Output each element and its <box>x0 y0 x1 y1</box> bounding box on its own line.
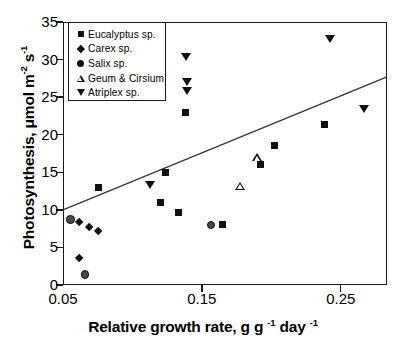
data-point <box>257 157 262 161</box>
y-axis-unit-1: mol m <box>20 75 37 120</box>
marker-triangle-down-filled <box>182 78 192 86</box>
data-point <box>79 223 82 226</box>
marker-square-filled <box>157 199 164 206</box>
marker-circle-filled <box>77 60 84 67</box>
y-axis-title: Photosynthesis, μmol m-2 s-1 <box>18 0 37 298</box>
data-point <box>274 145 278 149</box>
marker-triangle-down-filled <box>77 89 85 96</box>
y-axis-exponent-1: -2 <box>18 66 29 74</box>
legend-item[interactable]: Carex sp. <box>74 42 165 57</box>
y-axis-title-text: Photosynthesis, <box>20 128 37 249</box>
marker-square-filled <box>175 209 182 216</box>
x-axis-title-text: Relative growth rate, g g <box>88 318 267 335</box>
marker-square-filled <box>162 169 169 176</box>
chart-legend: Eucalyptus sp.Carex sp.Salix sp.Geum & C… <box>68 22 166 101</box>
data-point <box>160 202 164 206</box>
data-point <box>150 185 155 189</box>
data-point <box>80 258 83 261</box>
x-axis-title: Relative growth rate, g g -1 day -1 <box>0 317 406 336</box>
y-axis-unit-2: s <box>20 54 37 67</box>
data-point <box>89 227 92 230</box>
data-point <box>211 225 215 229</box>
data-point <box>85 274 89 278</box>
legend-item-label: Salix sp. <box>87 58 127 69</box>
marker-square-filled <box>78 31 84 37</box>
marker-triangle-down-filled <box>182 87 192 95</box>
data-point <box>260 165 264 169</box>
data-point <box>325 124 329 128</box>
marker-square-filled <box>321 121 328 128</box>
y-axis-exponent-2: -1 <box>18 46 29 54</box>
marker-square-filled <box>182 109 189 116</box>
legend-item-label: Geum & Cirsium <box>87 73 164 84</box>
x-axis-title-mid: day <box>275 318 309 335</box>
legend-item-label: Eucalyptus sp. <box>87 29 156 40</box>
marker-square-filled <box>271 142 278 149</box>
trendline-svg <box>0 0 406 347</box>
data-point <box>187 91 192 95</box>
marker-circle-filled <box>66 215 74 223</box>
scatter-chart-figure: 05101520253035 0.050.150.25 Eucalyptus s… <box>0 0 406 347</box>
legend-marker-triangle-down-filled <box>74 89 87 96</box>
data-point <box>186 112 190 116</box>
data-point <box>187 82 192 86</box>
marker-triangle-down-filled <box>145 181 155 189</box>
legend-item-label: Atriplex sp. <box>87 87 140 98</box>
x-axis-exponent-2: -1 <box>310 317 318 328</box>
data-points-layer <box>0 0 406 347</box>
legend-marker-square-filled <box>74 31 87 37</box>
marker-triangle-up-open <box>252 153 262 161</box>
marker-triangle-down-filled <box>359 105 369 113</box>
data-point <box>178 212 182 216</box>
legend-item[interactable]: Geum & Cirsium <box>74 71 165 86</box>
data-point <box>186 57 191 61</box>
legend-marker-circle-filled <box>74 60 87 67</box>
marker-triangle-up-open <box>235 182 245 190</box>
marker-triangle-up-open <box>77 75 85 82</box>
legend-marker-diamond-filled <box>74 46 87 52</box>
marker-circle-filled <box>207 221 215 229</box>
legend-item[interactable]: Salix sp. <box>74 56 165 71</box>
legend-item[interactable]: Eucalyptus sp. <box>74 27 165 42</box>
data-point <box>330 39 335 43</box>
data-point <box>98 232 101 235</box>
data-point <box>165 172 169 176</box>
legend-item[interactable]: Atriplex sp. <box>74 85 165 100</box>
data-point <box>71 220 75 224</box>
mu-symbol: μ <box>20 119 37 128</box>
marker-square-filled <box>257 161 264 168</box>
data-point <box>240 186 245 190</box>
data-point <box>98 187 102 191</box>
marker-square-filled <box>219 221 226 228</box>
legend-item-label: Carex sp. <box>87 43 133 54</box>
marker-square-filled <box>95 184 102 191</box>
marker-circle-filled <box>81 270 89 278</box>
marker-diamond-filled <box>77 45 85 53</box>
marker-triangle-down-filled <box>181 53 191 61</box>
marker-triangle-down-filled <box>325 35 335 43</box>
data-point <box>223 225 227 229</box>
data-point <box>364 109 369 113</box>
legend-marker-triangle-up-open <box>74 75 87 82</box>
